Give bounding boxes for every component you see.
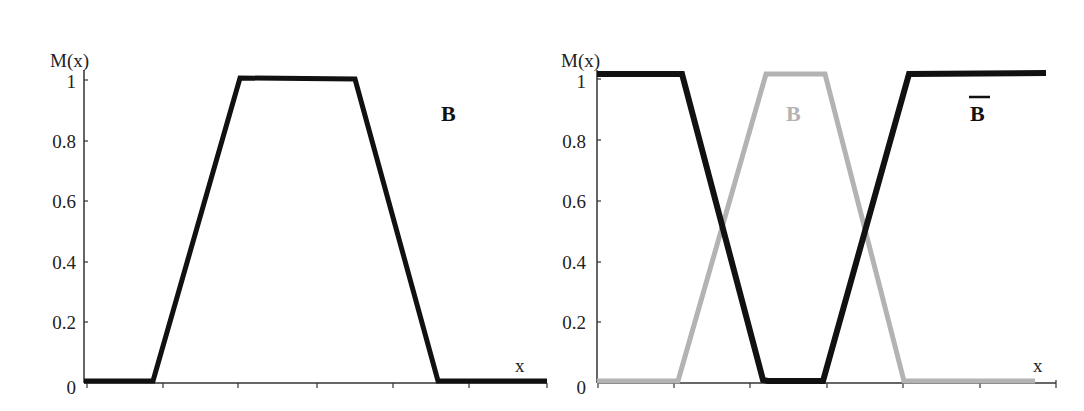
left-y-axis-title: M(x) xyxy=(50,50,89,72)
right-ytick-0.8: 0.8 xyxy=(562,131,586,152)
right-series-b-label: B xyxy=(786,101,801,126)
left-ytick-0: 0 xyxy=(67,377,77,398)
left-series-b-label: B xyxy=(441,101,456,126)
left-ytick-0.6: 0.6 xyxy=(52,191,76,212)
left-chart: M(x) 1 0.8 0.6 0.4 0.2 0 x xyxy=(50,50,547,398)
left-series-b-line xyxy=(84,78,547,381)
right-ytick-0: 0 xyxy=(577,377,587,398)
right-ytick-0.4: 0.4 xyxy=(562,252,586,273)
left-ytick-0.8: 0.8 xyxy=(52,131,76,152)
right-series-bbar-label: B xyxy=(970,101,985,126)
right-y-axis-title: M(x) xyxy=(561,50,600,72)
left-ytick-0.4: 0.4 xyxy=(52,252,76,273)
figure: M(x) 1 0.8 0.6 0.4 0.2 0 x xyxy=(0,0,1084,411)
right-x-axis-title: x xyxy=(1033,355,1043,376)
right-ytick-0.6: 0.6 xyxy=(562,191,586,212)
right-ytick-0.2: 0.2 xyxy=(562,312,586,333)
left-ytick-1: 1 xyxy=(67,71,77,92)
left-ytick-0.2: 0.2 xyxy=(52,312,76,333)
right-ytick-1: 1 xyxy=(577,71,587,92)
left-x-axis-title: x xyxy=(515,355,525,376)
right-chart: M(x) 1 0.8 0.6 0.4 0.2 0 x B xyxy=(561,50,1056,398)
